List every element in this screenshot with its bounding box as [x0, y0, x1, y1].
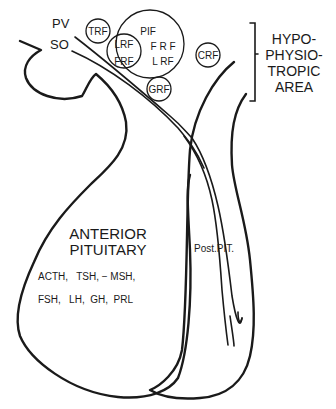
- pv-label: PV: [52, 16, 70, 31]
- axon-branch-2: [238, 312, 242, 322]
- axon-branch-1: [230, 316, 234, 346]
- area-label-line-3: TROPIC: [268, 63, 321, 79]
- frf-inner-label: FRF: [114, 56, 133, 67]
- area-bracket: [250, 23, 258, 101]
- so-tract-line: [72, 51, 204, 168]
- lrf-outer-label: L RF: [152, 56, 173, 67]
- pif-label: PIF: [140, 26, 156, 37]
- area-label-line-2: PHYSIO-: [265, 47, 323, 63]
- frf-outer-label: F R F: [151, 41, 176, 52]
- area-label-line-4: AREA: [275, 79, 314, 95]
- area-label-line-1: HYPO-: [272, 31, 317, 47]
- crf-label: CRF: [198, 50, 219, 61]
- so-label: SO: [50, 37, 69, 52]
- trf-label: TRF: [88, 26, 107, 37]
- anterior-hormones-line-1: ACTH, TSH, − MSH,: [38, 271, 135, 282]
- lrf-inner-label: LRF: [115, 39, 134, 50]
- pituitary-diagram: PV SO TRF PIF LRF FRF F R F L RF GRF CRF…: [0, 0, 336, 409]
- anterior-hormones-line-2: FSH, LH, GH, PRL: [38, 294, 133, 305]
- anterior-title-line-2: PITUITARY: [70, 241, 147, 258]
- anterior-title-line-1: ANTERIOR: [69, 225, 147, 242]
- grf-label: GRF: [148, 84, 169, 95]
- posterior-pituitary-label: Post.PIT.: [194, 243, 234, 254]
